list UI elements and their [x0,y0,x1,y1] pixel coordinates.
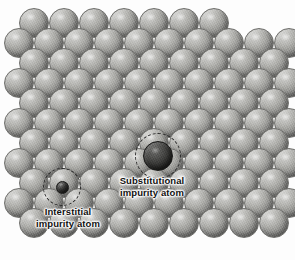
substitutional-highlight-ring [135,133,181,179]
substitutional-impurity-label: Substitutional impurity atom [106,175,198,198]
lattice-atom [139,208,169,238]
lattice-atom [169,208,199,238]
figure-canvas: Substitutional impurity atom Interstitia… [0,0,295,260]
atom-texture [200,209,228,237]
atom-texture [230,209,258,237]
atom-texture [140,209,168,237]
interstitial-highlight-ring [43,168,81,206]
lattice-atom [229,208,259,238]
interstitial-impurity-label: Interstitial impurity atom [18,206,118,229]
lattice-atom [199,208,229,238]
atom-texture [170,209,198,237]
lattice-atom [259,208,289,238]
atom-texture [260,209,288,237]
